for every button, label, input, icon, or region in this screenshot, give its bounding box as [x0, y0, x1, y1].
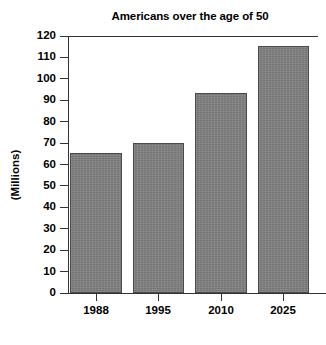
y-axis-tick-label: 110: [10, 51, 56, 63]
y-axis-tick: [60, 121, 68, 122]
y-axis-tick: [60, 250, 68, 251]
bar-2010: [195, 93, 247, 293]
y-axis-tick-label: 20: [10, 244, 56, 256]
y-axis-tick-label: 70: [10, 137, 56, 149]
y-axis-tick: [60, 271, 68, 272]
y-axis-tick: [60, 228, 68, 229]
x-axis-tick-label: 2010: [191, 305, 251, 317]
y-axis-tick-label: 10: [10, 266, 56, 278]
bar-1995: [133, 143, 185, 293]
y-axis-tick: [60, 78, 68, 79]
y-axis-tick: [60, 164, 68, 165]
y-axis-tick: [60, 100, 68, 101]
x-axis-tick-label: 1995: [128, 305, 188, 317]
x-axis-tick: [283, 293, 284, 301]
y-axis-tick: [60, 57, 68, 58]
y-axis-tick-label: 30: [10, 223, 56, 235]
chart-title: Americans over the age of 50: [60, 10, 320, 22]
x-axis-tick-label: 1988: [66, 305, 126, 317]
x-axis-tick: [158, 293, 159, 301]
bar-chart: Americans over the age of 50 (Millions) …: [0, 0, 326, 345]
x-axis-line: [60, 293, 326, 294]
y-axis-tick-label: 80: [10, 116, 56, 128]
x-axis-tick: [96, 293, 97, 301]
y-axis-tick-label: 90: [10, 94, 56, 106]
y-axis-tick: [60, 143, 68, 144]
y-axis-tick: [60, 293, 68, 294]
y-axis-tick: [60, 185, 68, 186]
y-axis-title-label: (Millions): [9, 150, 21, 200]
y-axis-tick-label: 60: [10, 159, 56, 171]
x-axis-tick: [221, 293, 222, 301]
y-axis-tick-label: 120: [10, 30, 56, 42]
y-axis-tick-label: 0: [10, 287, 56, 299]
bar-1988: [70, 153, 122, 293]
y-axis-tick-label: 40: [10, 201, 56, 213]
bar-2025: [258, 46, 310, 293]
y-axis-tick: [60, 36, 68, 37]
y-axis-tick-label: 100: [10, 73, 56, 85]
y-axis-tick-label: 50: [10, 180, 56, 192]
x-axis-tick-label: 2025: [253, 305, 313, 317]
y-axis-tick: [60, 207, 68, 208]
